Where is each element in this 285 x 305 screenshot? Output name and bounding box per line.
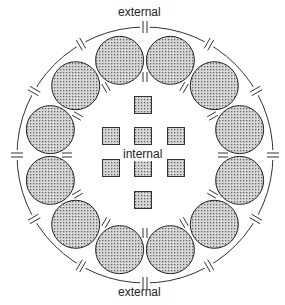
junction-icon xyxy=(72,190,81,195)
cell xyxy=(96,36,144,84)
cell xyxy=(96,226,144,274)
cell xyxy=(26,156,74,204)
junction-icon xyxy=(207,193,216,198)
inner-square xyxy=(103,160,120,177)
junction-icon xyxy=(207,112,216,117)
inner-square xyxy=(135,97,152,114)
junction-icon xyxy=(105,82,110,91)
junction-icon xyxy=(209,190,218,195)
external-label-top: external xyxy=(118,5,161,19)
internal-label: internal xyxy=(123,147,162,161)
junction-icon xyxy=(74,112,83,117)
cell xyxy=(146,36,194,84)
junction-icon xyxy=(72,115,81,120)
inner-square xyxy=(135,128,152,145)
junction-icon xyxy=(102,84,107,93)
inner-square xyxy=(103,128,120,145)
cell xyxy=(146,226,194,274)
junction-icon xyxy=(183,84,188,93)
diagram: external internal external xyxy=(0,0,285,305)
cell xyxy=(26,106,74,154)
cell xyxy=(216,156,264,204)
cell xyxy=(52,200,100,248)
junction-icon xyxy=(183,217,188,226)
cell xyxy=(216,106,264,154)
inner-square xyxy=(135,192,152,209)
external-label-bottom: external xyxy=(118,285,161,299)
junction-icon xyxy=(102,217,107,226)
cell xyxy=(190,200,238,248)
inner-square xyxy=(168,160,185,177)
cell xyxy=(52,62,100,110)
cell xyxy=(190,62,238,110)
junction-icon xyxy=(74,193,83,198)
junction-icon xyxy=(180,82,185,91)
junction-icon xyxy=(180,219,185,228)
inner-square xyxy=(168,128,185,145)
inner-square xyxy=(135,160,152,177)
junction-icon xyxy=(209,115,218,120)
junction-icon xyxy=(105,219,110,228)
